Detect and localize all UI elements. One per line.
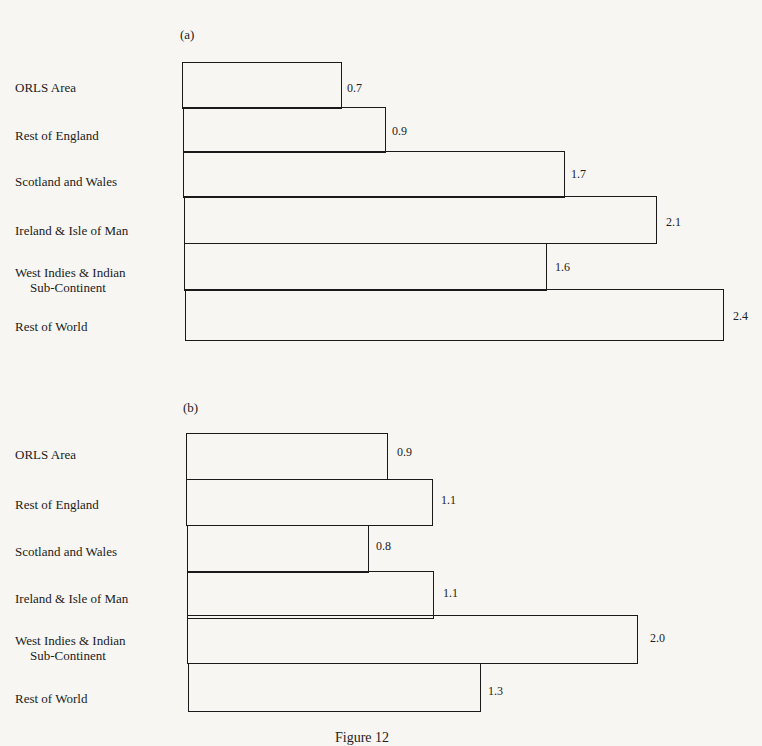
category-label: ORLS Area (15, 447, 76, 462)
bar (185, 289, 724, 341)
value-label: 1.1 (443, 586, 458, 601)
value-label: 0.7 (347, 81, 362, 96)
value-label: 1.1 (441, 493, 456, 508)
category-label: Scotland and Wales (15, 544, 117, 559)
value-label: 0.9 (397, 445, 412, 460)
value-label: 2.4 (733, 309, 748, 324)
category-label: Scotland and Wales (15, 174, 117, 189)
bar (187, 525, 369, 573)
bar (184, 243, 547, 291)
category-label: Rest of World (15, 691, 87, 706)
category-label: Ireland & Isle of Man (15, 223, 128, 238)
bar (187, 615, 638, 664)
category-label-line2: Sub-Continent (15, 280, 126, 295)
category-label: Rest of England (15, 497, 99, 512)
category-label: ORLS Area (15, 80, 76, 95)
category-label: Rest of England (15, 128, 99, 143)
bar (184, 196, 657, 244)
panel-b-label: (b) (183, 400, 198, 416)
bar (187, 571, 434, 619)
bar (182, 62, 342, 109)
category-label: Ireland & Isle of Man (15, 591, 128, 606)
value-label: 0.8 (376, 539, 391, 554)
bar (188, 663, 481, 712)
value-label: 1.7 (571, 167, 586, 182)
category-label-line2: Sub-Continent (15, 648, 126, 663)
bar (183, 107, 386, 153)
value-label: 2.0 (650, 631, 665, 646)
value-label: 1.6 (555, 260, 570, 275)
value-label: 0.9 (392, 124, 407, 139)
value-label: 1.3 (488, 684, 503, 699)
value-label: 2.1 (666, 215, 681, 230)
category-label: Rest of World (15, 319, 87, 334)
category-label-line1: West Indies & Indian (15, 265, 126, 280)
panel-a-label: (a) (180, 27, 194, 43)
category-label: West Indies & Indian Sub-Continent (15, 265, 126, 295)
category-label-line1: West Indies & Indian (15, 633, 126, 648)
bar (183, 151, 565, 198)
bar (186, 433, 388, 480)
category-label: West Indies & Indian Sub-Continent (15, 633, 126, 663)
bar (186, 479, 433, 526)
figure-caption: Figure 12 (335, 730, 389, 746)
